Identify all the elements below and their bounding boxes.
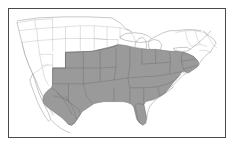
- map-frame: [8, 8, 226, 138]
- us-choropleth-map: [9, 9, 225, 137]
- map-figure: [0, 0, 236, 149]
